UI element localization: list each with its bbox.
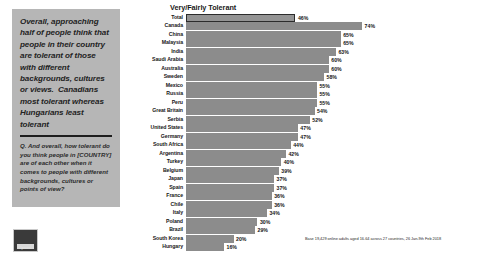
callout-question-text: Q. And overall, how tolerant do you thin… [20, 142, 112, 194]
bar-track: 74% [186, 22, 475, 30]
bar-value-label: 39% [279, 167, 292, 175]
bar-value-label: 60% [329, 65, 342, 73]
chart-row: Total46% [131, 14, 475, 22]
bar-category-label: Chile [131, 201, 186, 209]
bar-track: 40% [186, 158, 475, 166]
bar-value-label: 60% [329, 56, 342, 64]
bar-track: 65% [186, 31, 475, 39]
bar-track: 37% [186, 184, 475, 192]
chart-row: Peru55% [131, 99, 475, 107]
bar-track: 39% [186, 167, 475, 175]
bar [186, 218, 257, 226]
bar-category-label: Total [131, 14, 186, 22]
bar [186, 14, 295, 22]
bar-category-label: China [131, 31, 186, 39]
bar-category-label: Brazil [131, 226, 186, 234]
bar [186, 116, 310, 124]
chart-row: Serbia52% [131, 116, 475, 124]
bar-track: 55% [186, 82, 475, 90]
bar-value-label: 16% [224, 243, 237, 251]
bar-category-label: Sweden [131, 73, 186, 81]
chart-row: Australia60% [131, 65, 475, 73]
bar [186, 31, 341, 39]
bar [186, 82, 317, 90]
bar-category-label: Serbia [131, 116, 186, 124]
bar-track: 36% [186, 192, 475, 200]
chart-row: Poland30% [131, 218, 475, 226]
chart-row: Saudi Arabia60% [131, 56, 475, 64]
chart-row: South Africa44% [131, 141, 475, 149]
bar-value-label: 36% [272, 201, 285, 209]
bar-track: 36% [186, 201, 475, 209]
bar [186, 167, 279, 175]
bar [186, 90, 317, 98]
chart-row: Germany47% [131, 133, 475, 141]
chart-row: Belgium39% [131, 167, 475, 175]
chart-row: Mexico55% [131, 82, 475, 90]
chart-row: Great Britain54% [131, 107, 475, 115]
bar [186, 22, 362, 30]
bar-track: 60% [186, 56, 475, 64]
bar-value-label: 37% [274, 184, 287, 192]
bar [186, 73, 324, 81]
bar-value-label: 58% [324, 73, 337, 81]
bar [186, 56, 329, 64]
bar-category-label: Germany [131, 133, 186, 141]
chart-row: United States47% [131, 124, 475, 132]
bar [186, 201, 272, 209]
bar-track: 65% [186, 39, 475, 47]
bar [186, 158, 281, 166]
bar-track: 30% [186, 218, 475, 226]
bar-track: 63% [186, 48, 475, 56]
bar [186, 107, 315, 115]
bar-track: 44% [186, 141, 475, 149]
bar-category-label: Australia [131, 65, 186, 73]
callout-panel: Overall, approaching half of people thin… [12, 9, 120, 207]
bar-track: 47% [186, 124, 475, 132]
bar [186, 141, 291, 149]
bar-category-label: Peru [131, 99, 186, 107]
bar-track: 37% [186, 175, 475, 183]
bar-value-label: 74% [362, 22, 375, 30]
bar-track: 29% [186, 226, 475, 234]
bar-track: 42% [186, 150, 475, 158]
chart-row: Brazil29% [131, 226, 475, 234]
bar-category-label: Belgium [131, 167, 186, 175]
bar-track: 60% [186, 65, 475, 73]
chart-row: Spain37% [131, 184, 475, 192]
bar-value-label: 30% [257, 218, 270, 226]
bar-category-label: Argentina [131, 150, 186, 158]
chart-row: Italy34% [131, 209, 475, 217]
bar-category-label: France [131, 192, 186, 200]
bar-value-label: 55% [317, 99, 330, 107]
bar-category-label: Great Britain [131, 107, 186, 115]
bar-track: 52% [186, 116, 475, 124]
bar-value-label: 55% [317, 90, 330, 98]
chart-row: France36% [131, 192, 475, 200]
bar-category-label: United States [131, 124, 186, 132]
bar-track: 54% [186, 107, 475, 115]
bar-value-label: 29% [255, 226, 268, 234]
bar-category-label: South Africa [131, 141, 186, 149]
bar-value-label: 54% [315, 107, 328, 115]
ipsos-logo-mark [17, 244, 34, 249]
chart-row: Japan37% [131, 175, 475, 183]
chart-row: Malaysia65% [131, 39, 475, 47]
bar-category-label: Malaysia [131, 39, 186, 47]
bar-category-label: Italy [131, 209, 186, 217]
bar-track: 55% [186, 99, 475, 107]
chart-region: Very/Fairly Tolerant Total46%Canada74%Ch… [131, 3, 475, 258]
bar-value-label: 55% [317, 82, 330, 90]
bar [186, 150, 286, 158]
bar-chart-rows: Total46%Canada74%China65%Malaysia65%Indi… [131, 14, 475, 252]
bar-category-label: Saudi Arabia [131, 56, 186, 64]
source-note: Base 19,429 online adults aged 16-64 acr… [305, 236, 441, 241]
bar [186, 39, 341, 47]
chart-row: Argentina42% [131, 150, 475, 158]
bar-value-label: 40% [281, 158, 294, 166]
bar-track: 47% [186, 133, 475, 141]
bar [186, 65, 329, 73]
bar [186, 243, 224, 251]
bar [186, 175, 274, 183]
bar-value-label: 42% [286, 150, 299, 158]
